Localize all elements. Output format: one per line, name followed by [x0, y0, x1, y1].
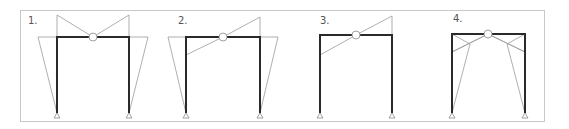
support-right-icon — [126, 113, 132, 118]
panel-1-label: 1. — [28, 15, 38, 26]
column-moment-right — [129, 37, 148, 113]
support-left-icon — [449, 113, 455, 118]
support-right-icon — [389, 113, 395, 118]
support-left-icon — [54, 113, 60, 118]
panel-2-label: 2. — [178, 15, 188, 26]
frame-structure — [320, 35, 392, 113]
hinge-icon — [219, 33, 227, 41]
frame-structure — [186, 37, 260, 113]
support-left-icon — [183, 113, 189, 118]
beam-moment-left — [320, 35, 356, 55]
column-moment-left — [452, 34, 470, 113]
frame-diagrams-figure: 1. 2. 3. 4. — [0, 0, 569, 129]
panel-2: 2. — [168, 15, 278, 118]
column-moment-left — [168, 37, 186, 113]
panel-3: 3. — [317, 15, 395, 118]
beam-moment-right — [356, 16, 392, 35]
column-moment-right — [507, 34, 525, 113]
panel-3-label: 3. — [320, 15, 330, 26]
hinge-icon — [484, 30, 492, 38]
panel-4: 4. — [449, 13, 528, 118]
column-moment-left — [38, 37, 57, 113]
panel-4-label: 4. — [453, 13, 463, 24]
support-right-icon — [522, 113, 528, 118]
hinge-icon — [89, 33, 97, 41]
frame-structure — [57, 37, 129, 113]
column-moment-right — [260, 37, 278, 113]
beam-moment-left — [57, 15, 93, 37]
panel-1: 1. — [28, 15, 148, 118]
hinge-icon — [352, 31, 360, 39]
support-left-icon — [317, 113, 323, 118]
figure-border — [21, 11, 545, 122]
frame-structure — [452, 34, 525, 113]
beam-moment-left — [186, 37, 223, 55]
beam-moment-right — [223, 17, 260, 37]
support-right-icon — [257, 113, 263, 118]
beam-moment-right — [93, 15, 129, 37]
